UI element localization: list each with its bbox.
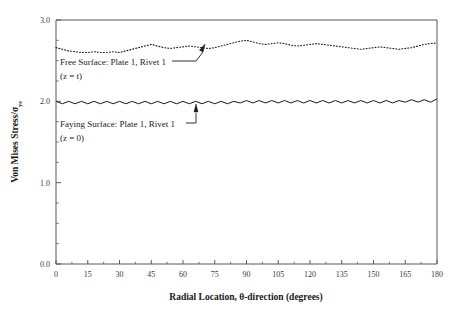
x-tick-label: 180 (431, 270, 443, 279)
x-axis-ticks (56, 260, 437, 264)
von-mises-stress-chart: 0153045607590105120135150165180 0.01.02.… (0, 0, 464, 311)
series-group (56, 40, 437, 103)
y-tick-label: 3.0 (40, 16, 50, 25)
y-tick-label: 1.0 (40, 179, 50, 188)
x-tick-label: 0 (54, 270, 58, 279)
x-tick-label: 165 (399, 270, 411, 279)
y-axis-title-text: Von Mises Stress/σys (10, 101, 23, 183)
annotation-free-surface: Free Surface: Plate 1, Rivet 1 (z = t) (60, 44, 205, 81)
faying-surface-label-line1: Faying Surface: Plate 1, Rivet 1 (60, 119, 175, 129)
free-surface-label-line1: Free Surface: Plate 1, Rivet 1 (60, 57, 166, 67)
annotations-group: Free Surface: Plate 1, Rivet 1 (z = t) F… (60, 44, 205, 143)
x-tick-label: 60 (179, 270, 187, 279)
faying-surface-label-line2: (z = 0) (60, 133, 84, 143)
free-surface-arrowhead (199, 44, 205, 52)
x-axis-title-text: Radial Location, θ-direction (degrees) (169, 292, 322, 303)
x-tick-label: 75 (211, 270, 219, 279)
free-surface-leader-line (172, 52, 203, 61)
x-tick-label: 120 (304, 270, 316, 279)
x-tick-label: 135 (336, 270, 348, 279)
y-tick-label: 0.0 (40, 260, 50, 269)
annotation-faying-surface: Faying Surface: Plate 1, Rivet 1 (z = 0) (60, 104, 198, 143)
y-axis-tick-labels: 0.01.02.03.0 (40, 16, 50, 269)
faying-surface-leader-line (186, 113, 196, 123)
x-tick-label: 30 (116, 270, 124, 279)
free-surface-series (56, 40, 437, 52)
x-tick-label: 15 (84, 270, 92, 279)
x-tick-label: 150 (368, 270, 380, 279)
faying-surface-series (56, 99, 437, 104)
faying-surface-arrowhead (194, 104, 198, 112)
x-tick-label: 45 (147, 270, 155, 279)
free-surface-label-line2: (z = t) (60, 71, 82, 81)
y-tick-label: 2.0 (40, 97, 50, 106)
x-tick-label: 105 (272, 270, 284, 279)
y-axis-title: Von Mises Stress/σys (10, 101, 23, 183)
x-axis-title: Radial Location, θ-direction (degrees) (169, 292, 322, 303)
chart-figure: 0153045607590105120135150165180 0.01.02.… (0, 0, 464, 311)
x-tick-label: 90 (243, 270, 251, 279)
x-axis-tick-labels: 0153045607590105120135150165180 (54, 270, 443, 279)
